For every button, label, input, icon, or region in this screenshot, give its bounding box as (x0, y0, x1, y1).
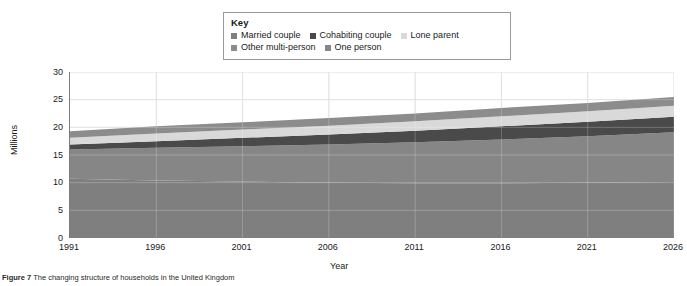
legend-item-married-couple: Married couple (231, 30, 301, 41)
legend-row-2: Other multi-person One person (231, 42, 503, 53)
x-axis-tick-1996: 1996 (132, 243, 178, 252)
x-axis-tick-2026: 2026 (650, 243, 687, 252)
y-axis-tick-10: 10 (37, 178, 63, 187)
figure-caption: Figure 7 The changing structure of house… (2, 273, 422, 282)
x-axis-tick-2011: 2011 (391, 243, 437, 252)
legend-swatch-married-couple (231, 33, 237, 39)
stacked-area-chart (70, 72, 674, 238)
chart-plot-area (69, 72, 673, 238)
y-axis-tick-20: 20 (37, 123, 63, 132)
legend-item-one-person: One person (325, 42, 382, 53)
legend-swatch-cohabiting-couple (310, 33, 316, 39)
legend-label-married-couple: Married couple (241, 30, 301, 41)
y-axis-tick-25: 25 (37, 95, 63, 104)
legend-label-lone-parent: Lone parent (411, 30, 459, 41)
legend-title: Key (231, 17, 503, 28)
legend-item-cohabiting-couple: Cohabiting couple (310, 30, 392, 41)
legend-swatch-other-multi-person (231, 45, 237, 51)
x-axis-tick-2001: 2001 (219, 243, 265, 252)
legend-swatch-one-person (325, 45, 331, 51)
y-axis-tick-15: 15 (37, 151, 63, 160)
legend-item-other-multi-person: Other multi-person (231, 42, 316, 53)
x-axis-title: Year (330, 261, 348, 271)
y-axis-tick-5: 5 (37, 206, 63, 215)
figure-caption-text: The changing structure of households in … (33, 273, 234, 282)
x-axis-tick-2021: 2021 (564, 243, 610, 252)
y-axis-title: Millions (9, 110, 19, 170)
y-axis-tick-30: 30 (37, 68, 63, 77)
legend-label-one-person: One person (335, 42, 382, 53)
area-series-married-couple (70, 179, 674, 238)
legend-label-other-multi-person: Other multi-person (241, 42, 316, 53)
legend-label-cohabiting-couple: Cohabiting couple (320, 30, 392, 41)
x-axis-tick-2006: 2006 (305, 243, 351, 252)
x-axis-tick-1991: 1991 (46, 243, 92, 252)
legend-key-box: Key Married couple Cohabiting couple Lon… (223, 12, 511, 60)
x-axis-tick-2016: 2016 (477, 243, 523, 252)
legend-item-lone-parent: Lone parent (401, 30, 459, 41)
figure-number: Figure 7 (2, 273, 31, 282)
legend-swatch-lone-parent (401, 33, 407, 39)
legend-row-1: Married couple Cohabiting couple Lone pa… (231, 30, 503, 41)
